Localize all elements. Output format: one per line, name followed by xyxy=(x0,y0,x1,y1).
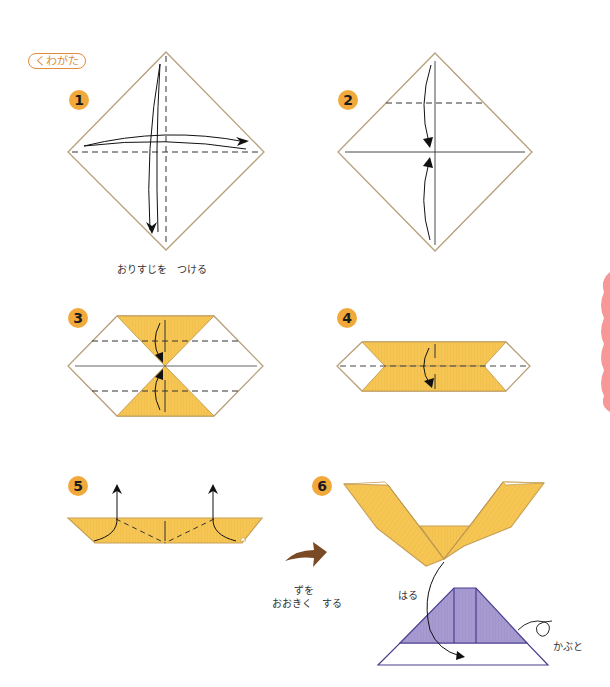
side-tab xyxy=(600,272,610,412)
step-3-diagram xyxy=(68,316,263,416)
helmet-label: かぶと xyxy=(553,638,583,653)
big-arrow-icon xyxy=(285,542,327,567)
step-5-diagram xyxy=(68,484,262,543)
transition-caption-line2: おおきく する xyxy=(272,595,342,610)
paste-label: はる xyxy=(398,587,418,602)
step-1-diagram xyxy=(68,52,264,250)
step-1-caption: おりすじを つける xyxy=(117,261,207,276)
step-2-diagram xyxy=(338,53,532,251)
helmet-diagram xyxy=(378,562,552,665)
step-6-diagram xyxy=(344,482,544,566)
step-4-diagram xyxy=(337,342,530,391)
